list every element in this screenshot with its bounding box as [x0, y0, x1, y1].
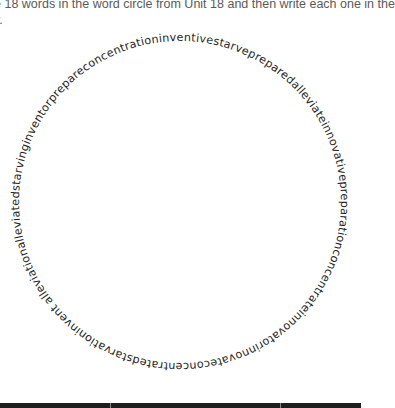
table-column-2 [110, 403, 280, 408]
word-circle-letters: alleviationalleviatedstarvinginventorpre… [9, 31, 351, 373]
table-column-3 [280, 403, 361, 408]
answer-table-header [0, 403, 361, 408]
table-column-1 [0, 403, 110, 408]
word-circle-text: alleviationalleviatedstarvinginventorpre… [9, 31, 351, 373]
